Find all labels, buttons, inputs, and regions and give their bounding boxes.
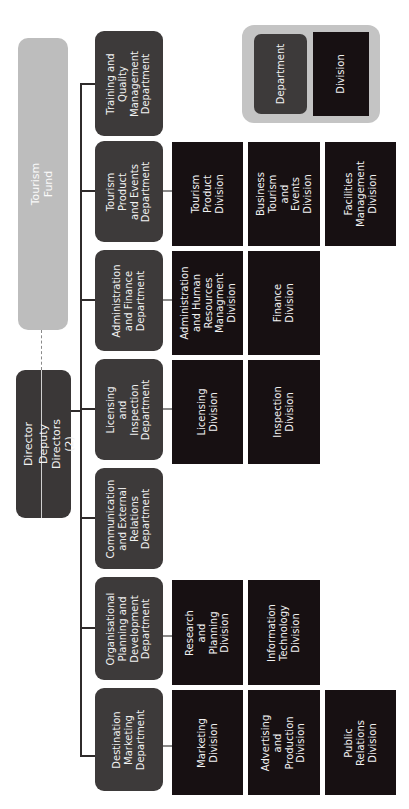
division-label: Finance Division xyxy=(272,283,296,323)
legend-department-swatch: Department xyxy=(254,34,307,114)
division-label: Public Relations Division xyxy=(343,720,378,766)
division-label: Advertising and Production Division xyxy=(260,714,307,771)
trunk-line xyxy=(80,83,82,757)
department-communication-external: Communication and External Relations Dep… xyxy=(95,468,163,569)
department-label: Tourism Product and Events Department xyxy=(105,161,152,222)
dept-division-connector xyxy=(163,190,172,192)
dept-division-connector xyxy=(163,745,172,747)
department-destination-marketing: Destination Marketing Department xyxy=(95,688,163,791)
department-administration-finance: Administration and Finance Department xyxy=(95,250,163,351)
division-research-planning: Research and Planning Division xyxy=(172,580,243,685)
branch-4 xyxy=(80,517,95,519)
division-business-tourism-events: Business Tourism and Events Division xyxy=(248,142,320,246)
division-marketing: Marketing Division xyxy=(172,690,243,795)
department-tourism-product-events: Tourism Product and Events Department xyxy=(95,141,163,242)
division-licensing: Licensing Division xyxy=(172,360,243,464)
division-public-relations: Public Relations Division xyxy=(325,690,396,795)
dept-division-connector xyxy=(163,408,172,410)
division-label: Information Technology Division xyxy=(266,604,301,662)
department-label: Training and Quality Management Departme… xyxy=(105,51,152,117)
department-label: Communication and External Relations Dep… xyxy=(105,479,152,558)
department-licensing-inspection: Licensing and Inspection Department xyxy=(95,359,163,460)
division-label: Licensing Division xyxy=(196,388,220,435)
department-label: Organisational Planning and Development … xyxy=(105,592,152,665)
division-label: Marketing Division xyxy=(196,718,220,768)
legend-division-swatch: Division xyxy=(313,32,369,116)
division-tourism-product: Tourism Product Division xyxy=(172,142,243,246)
department-organisational-planning: Organisational Planning and Development … xyxy=(95,577,163,680)
deputy-directors-label: Deputy Directors (2) xyxy=(37,419,76,469)
division-label: Facilities Management Division xyxy=(343,161,378,227)
division-advertising-production: Advertising and Production Division xyxy=(248,690,320,795)
division-label: Business Tourism and Events Division xyxy=(255,172,314,216)
division-information-technology: Information Technology Division xyxy=(248,580,320,685)
division-inspection: Inspection Division xyxy=(248,360,320,464)
branch-3 xyxy=(80,408,95,410)
branch-0 xyxy=(80,83,95,85)
tourism-fund-box: Tourism Fund xyxy=(18,38,68,330)
department-label: Destination Marketing Department xyxy=(111,709,146,770)
division-finance: Finance Division xyxy=(248,251,320,355)
branch-1 xyxy=(80,190,95,192)
division-label: Inspection Division xyxy=(272,386,296,438)
division-facilities-management: Facilities Management Division xyxy=(325,142,396,246)
branch-5 xyxy=(80,627,95,629)
department-label: Licensing and Inspection Department xyxy=(105,379,152,440)
dept-division-connector xyxy=(163,299,172,301)
director-label: Director xyxy=(22,422,35,466)
fund-to-director-dash xyxy=(41,330,42,370)
division-administration-hr: Administration and Human Resources Manag… xyxy=(172,251,243,355)
dept-division-connector xyxy=(163,635,172,637)
department-training-quality: Training and Quality Management Departme… xyxy=(95,31,163,136)
legend-department-label: Department xyxy=(275,44,287,105)
legend-division-label: Division xyxy=(335,54,347,94)
deputy-cell: Deputy Directors (2) xyxy=(42,370,71,518)
tourism-fund-label: Tourism Fund xyxy=(30,163,56,206)
branch-2 xyxy=(80,299,95,301)
division-label: Administration and Human Resources Manag… xyxy=(178,266,237,339)
department-label: Administration and Finance Department xyxy=(111,264,146,337)
legend: Department Division xyxy=(242,25,380,123)
branch-6 xyxy=(80,755,95,757)
division-label: Tourism Product Division xyxy=(190,174,225,214)
division-label: Research and Planning Division xyxy=(184,610,231,656)
